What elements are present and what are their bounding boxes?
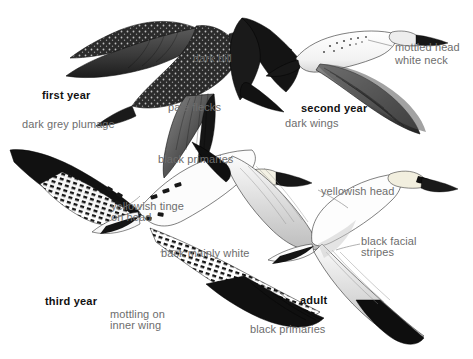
annotation-black-primaries-upper: black primaries [158,154,233,166]
adult-gannet-art [192,142,458,344]
annotation-dark-grey-plumage: dark grey plumage [22,119,115,131]
annotation-first-year: first year [42,90,90,102]
annotation-second-year: second year [301,103,367,115]
annotation-inner-wing: inner wing [110,320,161,332]
annotation-stripes: stripes [361,247,394,259]
annotation-adult: adult [300,295,327,307]
annotation-mottled-head: mottled head [395,42,460,54]
second-year-gannet-art [230,18,448,134]
annotation-pale-flecks: pale flecks [168,102,221,114]
annotation-third-year: third year [45,296,97,308]
gannet-plumage-plate: dark bill first year pale flecks dark gr… [0,0,473,359]
annotation-dark-wings: dark wings [285,118,339,130]
annotation-white-neck: white neck [395,55,448,67]
annotation-yellowish-head: yellowish head [321,186,395,198]
annotation-back-mainly-white: back mainly white [161,248,250,260]
annotation-black-primaries-lower: black primaries [250,324,325,336]
annotation-dark-bill: dark bill [193,53,232,65]
leader-lines [118,40,392,252]
annotation-on-head: on head [111,212,151,224]
